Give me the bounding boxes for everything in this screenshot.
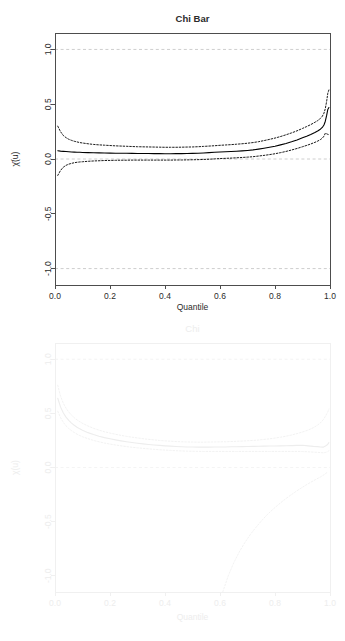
x-tick-label-0.0: 0.0: [49, 598, 61, 608]
y-tick-label-1.0: 1.0: [43, 43, 53, 55]
x-tick-label-0.2: 0.2: [104, 598, 116, 608]
y-tick-label-0.5: 0.5: [43, 98, 53, 110]
x-tick-label-0.4: 0.4: [159, 598, 171, 608]
series-line-estimate: [58, 398, 329, 447]
series-line-upper_ci: [58, 90, 329, 147]
y-tick-label--0.5: -0.5: [43, 514, 53, 529]
x-tick-label-0.6: 0.6: [214, 598, 226, 608]
y-axis-title: χ̄(u): [10, 151, 20, 166]
x-tick-label-0.6: 0.6: [214, 291, 226, 301]
series-group: [58, 90, 329, 175]
x-tick-label-0.2: 0.2: [104, 291, 116, 301]
y-tick-label-0.0: 0.0: [43, 461, 53, 473]
y-tick-label-0.0: 0.0: [43, 153, 53, 165]
y-tick-label--0.5: -0.5: [43, 206, 53, 221]
series-line-lower_bound_curve: [223, 472, 328, 592]
plot-title: Chi Bar: [176, 13, 210, 24]
x-tick-label-1.0: 1.0: [324, 291, 336, 301]
x-tick-label-0.4: 0.4: [159, 291, 171, 301]
plot-panel-chi-bar: Chi Bar0.00.20.40.60.81.0-1.0-0.50.00.51…: [0, 0, 345, 320]
y-tick-label-1.0: 1.0: [43, 353, 53, 365]
x-tick-label-1.0: 1.0: [324, 598, 336, 608]
series-group: [58, 385, 329, 592]
chi-plot-svg: Chi0.00.20.40.60.81.0-1.0-0.50.00.51.0Qu…: [0, 320, 345, 641]
plot-panel-chi: Chi0.00.20.40.60.81.0-1.0-0.50.00.51.0Qu…: [0, 320, 345, 641]
x-tick-label-0.8: 0.8: [269, 291, 281, 301]
x-tick-label-0.0: 0.0: [49, 291, 61, 301]
figure-canvas: Chi Bar0.00.20.40.60.81.0-1.0-0.50.00.51…: [0, 0, 345, 641]
series-line-lower_ci: [58, 133, 329, 175]
x-axis-title: Quantile: [177, 612, 209, 622]
x-axis-title: Quantile: [177, 302, 209, 312]
plot-title: Chi: [185, 323, 199, 334]
y-tick-label--1.0: -1.0: [43, 261, 53, 276]
chi-bar-plot-svg: Chi Bar0.00.20.40.60.81.0-1.0-0.50.00.51…: [0, 0, 345, 320]
x-tick-label-0.8: 0.8: [269, 598, 281, 608]
series-line-upper_ci: [58, 385, 329, 442]
y-tick-label-0.5: 0.5: [43, 407, 53, 419]
y-tick-label--1.0: -1.0: [43, 568, 53, 583]
y-axis-title: χ(u): [10, 460, 20, 475]
